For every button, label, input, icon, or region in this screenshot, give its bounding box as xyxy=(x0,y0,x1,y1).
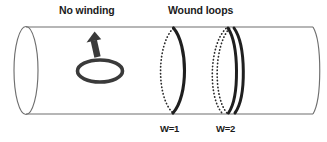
arrow-head-icon xyxy=(87,32,102,43)
winding-loop-w2-group xyxy=(212,28,243,113)
heading-wound-loops: Wound loops xyxy=(168,4,233,16)
label-winding-number-1: W=1 xyxy=(160,123,179,134)
cylinder-right-arc xyxy=(313,27,320,114)
cylinder-left-cap xyxy=(14,27,38,115)
heading-no-winding: No winding xyxy=(59,4,115,16)
w1-front-arc-solid xyxy=(173,28,185,113)
w2-front-arc-solid-inner xyxy=(228,28,237,113)
w2-back-arc-dotted-inner xyxy=(217,29,229,114)
contractible-loop-group xyxy=(78,60,123,82)
winding-loop-w1-group xyxy=(161,28,185,113)
label-winding-number-2: W=2 xyxy=(216,123,235,134)
contraction-arrow-group xyxy=(87,32,102,58)
w1-back-arc-dotted xyxy=(161,29,173,113)
winding-number-figure: No winding Wound loops W=1 W=2 xyxy=(0,0,327,142)
contractible-loop xyxy=(78,60,123,82)
w2-back-arc-dotted-outer xyxy=(212,29,226,114)
arrow-shaft xyxy=(94,41,98,58)
cylinder-diagram xyxy=(0,0,327,142)
cylinder-group xyxy=(14,27,320,115)
